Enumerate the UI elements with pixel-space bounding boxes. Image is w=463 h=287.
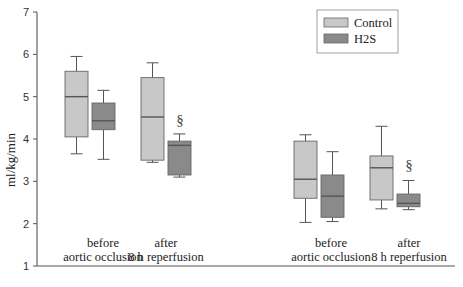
category-label: 8 h reperfusion	[371, 250, 447, 264]
box-plot-chart: 1234567 §§ beforeaortic occlusionafter8 …	[0, 0, 463, 287]
significance-marker: §	[405, 157, 413, 173]
legend: Control H2S	[317, 10, 398, 53]
box-control-1	[141, 63, 164, 162]
y-axis: 1234567	[23, 6, 37, 272]
box-iqr	[370, 156, 393, 200]
category-label: 8 h reperfusion	[128, 250, 204, 264]
y-tick-label: 2	[23, 218, 29, 230]
legend-label-h2s: H2S	[354, 32, 376, 46]
y-tick-label: 6	[23, 48, 29, 60]
box-h2s-0	[92, 90, 115, 159]
y-tick-label: 5	[23, 91, 29, 103]
y-tick-label: 3	[23, 175, 29, 187]
category-label: after	[155, 236, 179, 250]
box-h2s-1	[168, 134, 191, 177]
box-control-2	[294, 135, 317, 223]
box-h2s-3	[397, 180, 420, 209]
category-label: before	[87, 236, 119, 250]
box-iqr	[141, 78, 164, 161]
legend-swatch-control	[324, 18, 348, 27]
box-control-3	[370, 126, 393, 209]
box-control-0	[65, 56, 88, 153]
significance-marker: §	[176, 112, 184, 128]
y-tick-label: 4	[23, 133, 29, 145]
legend-label-control: Control	[354, 16, 393, 30]
box-iqr	[92, 103, 115, 130]
category-labels: beforeaortic occlusionafter8 h reperfusi…	[63, 236, 447, 264]
category-label: aortic occlusion	[291, 250, 371, 264]
box-iqr	[65, 71, 88, 137]
box-iqr	[397, 194, 420, 207]
y-axis-label: ml/kg/min	[3, 132, 18, 187]
y-tick-label: 1	[23, 260, 29, 272]
box-iqr	[168, 141, 191, 175]
box-h2s-2	[321, 152, 344, 222]
category-label: before	[315, 236, 347, 250]
legend-swatch-h2s	[324, 34, 348, 43]
box-iqr	[294, 141, 317, 198]
y-tick-label: 7	[23, 6, 29, 18]
category-label: after	[398, 236, 422, 250]
box-plot-series	[65, 56, 420, 222]
